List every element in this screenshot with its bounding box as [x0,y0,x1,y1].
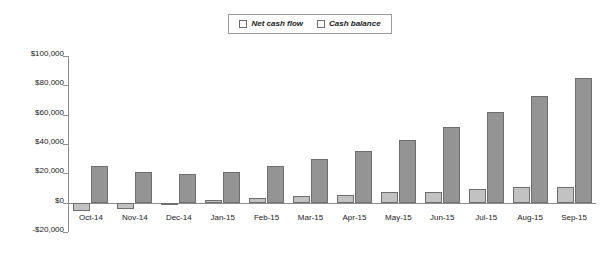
bar-cash-balance [91,166,108,203]
chart-legend: Net cash flow Cash balance [228,14,392,34]
bar-cash-balance [135,172,152,203]
bar-group [464,56,508,232]
y-tick-label: $20,000 [35,167,64,175]
x-axis-label: Oct-14 [69,214,113,222]
bar-net-cash-flow [117,203,134,209]
bar-group [201,56,245,232]
plot-area: $100,000$80,000$60,000$40,000$20,000$0-$… [68,56,596,232]
bar-cash-balance [531,96,548,203]
y-tick-label: $80,000 [35,79,64,87]
bar-cash-balance [355,151,372,203]
x-axis-label: Feb-15 [245,214,289,222]
x-axis-label: Apr-15 [333,214,377,222]
legend-label-cash-balance: Cash balance [329,20,381,28]
bar-group [113,56,157,232]
x-axis-label: Jun-15 [420,214,464,222]
x-axis-label: May-15 [376,214,420,222]
x-axis-label: Sep-15 [552,214,596,222]
bar-net-cash-flow [513,187,530,203]
y-tick-label: $40,000 [35,138,64,146]
x-axis-label: Jul-15 [464,214,508,222]
bar-group [508,56,552,232]
legend-entry-cash-balance: Cash balance [317,20,381,28]
bar-net-cash-flow [381,192,398,202]
bar-group [420,56,464,232]
y-tick-label: -$20,000 [32,226,64,234]
legend-swatch-cash-balance [317,20,325,28]
bar-group [333,56,377,232]
bar-group [69,56,113,232]
x-axis-label: Jan-15 [201,214,245,222]
bar-net-cash-flow [249,198,266,203]
bar-cash-balance [311,159,328,203]
y-tick-label: $100,000 [31,50,64,58]
bar-net-cash-flow [73,203,90,211]
bar-group [376,56,420,232]
x-axis-label: Dec-14 [157,214,201,222]
bar-net-cash-flow [557,187,574,203]
bar-group [289,56,333,232]
bar-series-container [69,56,596,232]
bar-net-cash-flow [337,195,354,202]
bar-cash-balance [223,172,240,203]
y-axis-tick: -$20,000 [68,232,69,233]
x-axis-label: Aug-15 [508,214,552,222]
y-tick-label: $0 [55,197,64,205]
bar-group [245,56,289,232]
legend-entry-net-cash-flow: Net cash flow [239,20,303,28]
bar-group [157,56,201,232]
bar-cash-balance [267,166,284,203]
bar-net-cash-flow [205,200,222,202]
bar-cash-balance [487,112,504,202]
y-tick-label: $60,000 [35,109,64,117]
bar-group [552,56,596,232]
x-axis-label: Nov-14 [113,214,157,222]
bar-net-cash-flow [161,203,178,205]
bar-net-cash-flow [469,189,486,203]
bar-cash-balance [575,78,592,203]
bar-cash-balance [399,140,416,203]
bar-net-cash-flow [293,196,310,203]
bar-cash-balance [443,127,460,203]
legend-label-net-cash-flow: Net cash flow [251,20,303,28]
x-axis-label: Mar-15 [289,214,333,222]
legend-swatch-net-cash-flow [239,20,247,28]
cash-flow-chart: Net cash flow Cash balance $100,000$80,0… [0,0,610,256]
bar-net-cash-flow [425,192,442,203]
bar-cash-balance [179,174,196,203]
